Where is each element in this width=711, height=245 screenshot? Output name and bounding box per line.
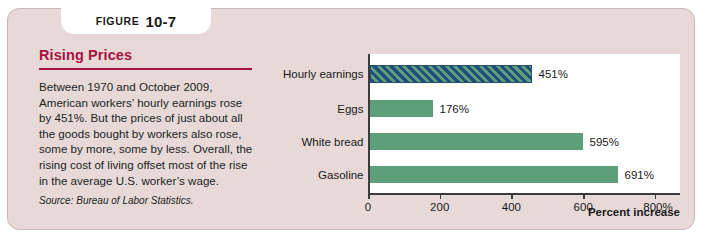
bar-white-bread — [370, 133, 583, 150]
x-tick-200 — [440, 194, 442, 199]
description-column: Rising Prices Between 1970 and October 2… — [39, 47, 255, 206]
category-label-eggs: Eggs — [280, 103, 364, 115]
x-axis-title: Percent increase — [368, 206, 680, 218]
category-label-white-bread: White bread — [280, 136, 364, 148]
panel-source-note: Source: Bureau of Labor Statistics. — [39, 195, 255, 206]
category-label-gasoline: Gasoline — [280, 169, 364, 181]
bar-row: White bread 595% — [370, 124, 619, 159]
figure-number-tab: FIGURE 10-7 — [61, 8, 211, 34]
bar-row: Eggs 176% — [370, 91, 469, 126]
bar-eggs — [370, 100, 433, 117]
bar-row: Hourly earnings 451% — [370, 56, 568, 91]
panel-body-text: Between 1970 and October 2009, American … — [39, 79, 255, 188]
bar-value-white-bread: 595% — [590, 136, 619, 148]
bar-gasoline — [370, 166, 618, 183]
title-divider — [39, 68, 252, 70]
bar-row: Gasoline 691% — [370, 157, 654, 192]
plot-area: Hourly earnings 451% Eggs 176% White bre… — [368, 54, 680, 194]
bar-value-eggs: 176% — [440, 103, 469, 115]
bar-value-hourly-earnings: 451% — [539, 68, 568, 80]
x-axis-line — [368, 193, 680, 195]
figure-word-label: FIGURE — [96, 15, 140, 27]
figure-number-label: 10-7 — [146, 13, 177, 30]
category-label-hourly-earnings: Hourly earnings — [280, 68, 364, 80]
bar-hourly-earnings — [370, 65, 532, 83]
x-tick-800 — [655, 194, 657, 199]
x-tick-600 — [583, 194, 585, 199]
x-tick-0 — [368, 194, 370, 199]
bar-value-gasoline: 691% — [625, 169, 654, 181]
x-tick-400 — [511, 194, 513, 199]
panel-title: Rising Prices — [39, 47, 255, 63]
figure-panel: FIGURE 10-7 Rising Prices Between 1970 a… — [7, 8, 695, 230]
bar-chart: Hourly earnings 451% Eggs 176% White bre… — [282, 39, 680, 219]
